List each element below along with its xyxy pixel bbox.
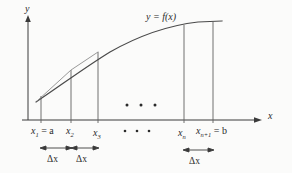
partition-sub-x3: 3 (97, 133, 100, 140)
partition-label-xn1: xn+1 = b (196, 126, 227, 136)
partition-sub-x2: 2 (70, 131, 73, 138)
delta-x-span-3-right-arrow (208, 148, 214, 152)
label-ellipsis-dot (148, 130, 151, 133)
partition-label-x2: x2 (66, 126, 74, 136)
partition-suffix-xn1: = b (211, 125, 227, 136)
partition-label-x1: x1 = a (31, 126, 54, 136)
plot-ellipsis-dot (140, 104, 143, 107)
label-ellipsis-dot (136, 130, 139, 133)
partition-label-xn: xn (178, 128, 186, 138)
y-axis-label: y (25, 4, 29, 14)
delta-x-label-2: Δx (76, 154, 87, 164)
plot-ellipsis-dot (126, 104, 129, 107)
delta-x-label-3: Δx (189, 156, 200, 166)
y-axis-arrowhead (25, 15, 31, 22)
partition-sub-xn: n (182, 133, 185, 140)
partition-suffix-x1: = a (39, 125, 54, 136)
plot-ellipsis-dot (154, 104, 157, 107)
label-ellipsis-dots (124, 130, 151, 133)
partition-sub-xn1: n+1 (200, 131, 211, 138)
label-ellipsis-dot (124, 130, 127, 133)
delta-x-label-1: Δx (47, 154, 58, 164)
figure-canvas (0, 0, 292, 173)
ordinate-lines (41, 22, 213, 123)
delta-x-span-2-right-arrow (93, 146, 99, 150)
x-axis (22, 117, 262, 123)
delta-x-span-3-left-arrow (183, 148, 189, 152)
delta-x-span-1-left-arrow (40, 146, 46, 150)
riemann-partition-figure: y x y = f(x) x1 = a x2 x3 xn xn+1 = b Δx… (0, 0, 292, 173)
delta-x-arrows (40, 146, 214, 152)
y-axis (25, 15, 31, 120)
secant-polyline (37, 52, 98, 101)
x-axis-arrowhead (254, 117, 262, 123)
x-axis-label: x (268, 111, 272, 121)
partition-label-x3: x3 (93, 128, 101, 138)
partition-sub-x1: 1 (35, 131, 38, 138)
function-curve (36, 21, 222, 102)
curve-label: y = f(x) (146, 11, 176, 22)
plot-ellipsis-dots (126, 104, 157, 107)
delta-x-span-2-left-arrow (71, 146, 77, 150)
